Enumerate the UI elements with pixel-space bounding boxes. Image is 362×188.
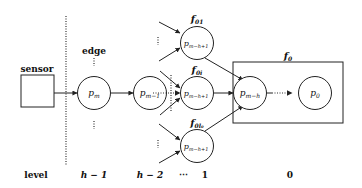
node-f0l0: f0l₀ pm−h+1	[181, 117, 214, 163]
level-h-2: h − 2	[137, 170, 164, 180]
level-0: 0	[287, 170, 293, 180]
node-pm-minus-h: pm−h	[234, 77, 267, 110]
edge-label: edge	[82, 46, 106, 56]
svg-text:f01: f01	[190, 13, 204, 25]
node-f0i: f0i pm−h+1	[181, 64, 214, 110]
level-title: level	[24, 170, 48, 180]
sensor-label: sensor	[20, 64, 53, 74]
level-ellipsis: ⋯	[179, 170, 188, 180]
node-pm-minus-1: pm−1	[134, 77, 167, 110]
node-f01: f01 pm−h+1	[181, 13, 214, 60]
level-1: 1	[202, 170, 208, 180]
node-pm: pm	[78, 77, 111, 110]
sensor-block: sensor	[20, 64, 54, 107]
svg-text:f0i: f0i	[191, 64, 203, 76]
level-h-1: h − 1	[81, 170, 108, 180]
hierarchy-diagram: sensor edge pm pm−1 f01 pm	[0, 0, 362, 188]
svg-text:f0: f0	[283, 50, 293, 62]
svg-text:f0l₀: f0l₀	[189, 117, 204, 129]
arrow-f01-to-pmh	[205, 58, 243, 80]
sensor-box	[21, 75, 54, 107]
level-axis: level h − 1 h − 2 ⋯ 1 0	[24, 170, 293, 180]
arrow-f0l0-to-pmh	[205, 106, 243, 131]
node-p0: p0	[299, 77, 332, 110]
